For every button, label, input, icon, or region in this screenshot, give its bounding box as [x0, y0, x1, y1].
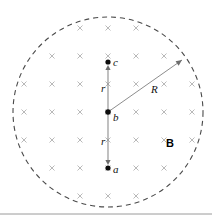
label-point-b: b: [113, 111, 119, 123]
field-cross-marker: [134, 82, 139, 87]
field-cross-marker: [78, 194, 83, 199]
field-cross-marker: [134, 110, 139, 115]
figure-canvas: c b a r r R B: [0, 0, 212, 221]
radius-arrowhead-icon: [176, 60, 182, 66]
field-cross-marker: [134, 166, 139, 171]
point-marker-b: [105, 109, 111, 115]
field-cross-marker: [162, 110, 167, 115]
field-cross-marker: [22, 82, 27, 87]
field-cross-marker: [134, 194, 139, 199]
field-cross-marker: [190, 82, 195, 87]
field-cross-marker: [78, 110, 83, 115]
field-cross-marker: [78, 26, 83, 31]
field-cross-marker: [162, 166, 167, 171]
field-cross-marker: [106, 194, 111, 199]
field-cross-marker: [78, 138, 83, 143]
label-point-c: c: [113, 56, 118, 68]
point-marker-c: [105, 59, 110, 64]
field-cross-marker: [50, 54, 55, 59]
field-cross-marker: [190, 110, 195, 115]
up-arrowhead-icon: [105, 65, 110, 70]
physics-figure: c b a r r R B: [0, 0, 212, 221]
label-field-B: B: [166, 137, 174, 149]
field-cross-marker: [78, 54, 83, 59]
field-cross-marker: [22, 110, 27, 115]
down-arrowhead-icon: [105, 160, 110, 165]
point-marker-a: [105, 165, 110, 170]
field-cross-marker: [22, 138, 27, 143]
field-cross-marker: [78, 82, 83, 87]
field-cross-marker: [50, 138, 55, 143]
field-cross-marker: [78, 166, 83, 171]
field-cross-marker: [190, 138, 195, 143]
field-cross-marker: [134, 54, 139, 59]
field-cross-marker: [106, 26, 111, 31]
radius-line: [108, 60, 182, 112]
label-distance-ba: r: [101, 135, 106, 147]
field-cross-marker: [50, 82, 55, 87]
label-point-a: a: [113, 163, 119, 175]
field-cross-marker: [106, 54, 111, 59]
label-distance-bc: r: [101, 82, 106, 94]
field-cross-marker: [134, 26, 139, 31]
label-radius-R: R: [150, 83, 158, 95]
field-cross-marker: [50, 110, 55, 115]
field-cross-marker: [162, 54, 167, 59]
field-cross-marker: [50, 166, 55, 171]
field-cross-marker: [134, 138, 139, 143]
field-cross-marker: [162, 82, 167, 87]
